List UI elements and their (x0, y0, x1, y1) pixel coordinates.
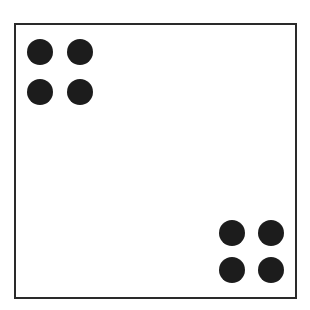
top-left-cluster-dot-icon (67, 79, 93, 105)
bottom-right-cluster-dot-icon (219, 220, 245, 246)
bottom-right-cluster-dot-icon (258, 220, 284, 246)
bottom-right-cluster-dot-icon (219, 257, 245, 283)
top-left-cluster-dot-icon (67, 39, 93, 65)
top-left-cluster-dot-icon (27, 79, 53, 105)
top-left-cluster-dot-icon (27, 39, 53, 65)
bottom-right-cluster-dot-icon (258, 257, 284, 283)
square-frame (14, 23, 297, 299)
